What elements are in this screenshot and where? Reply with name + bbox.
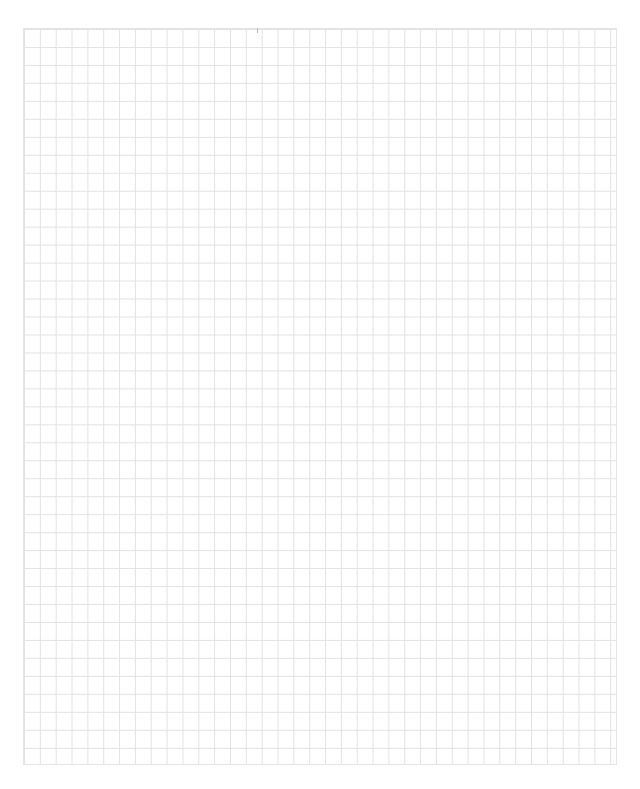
grid-paper [23,28,617,765]
pencil-mark [257,28,258,33]
